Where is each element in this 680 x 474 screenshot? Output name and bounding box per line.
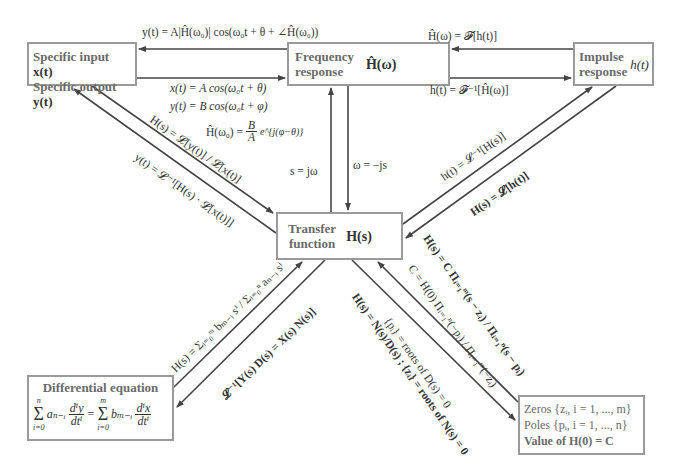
poles-line: Poles {pᵢ, i = 1, ..., n} bbox=[524, 417, 639, 433]
transfer-symbol: H(s) bbox=[346, 229, 372, 244]
h0-value-line: Value of H(0) = C bbox=[524, 433, 639, 449]
label-impulse-to-freq: Ĥ(ω) = 𝓕[h(t)] bbox=[428, 30, 497, 43]
impulse-label-2: response bbox=[579, 64, 627, 79]
y-of-t: y(t) bbox=[33, 94, 53, 109]
label-input-x: x(t) = A cos(ω₀t + θ) bbox=[170, 82, 266, 94]
diffeq-title: Differential equation bbox=[33, 380, 168, 395]
freq-label-2: response bbox=[295, 64, 354, 79]
transfer-function-box: Transfer function H(s) bbox=[276, 212, 403, 260]
arrow-impulse-to-transfer bbox=[406, 86, 616, 238]
diffeq-formula: n Σ i=0 aₙ₋ᵢ dⁱy dtⁱ = m Σ i=0 bₘ₋ᵢ dⁱx … bbox=[33, 396, 168, 432]
freq-label-1: Frequency bbox=[295, 49, 354, 64]
transfer-label-1: Transfer bbox=[288, 221, 336, 236]
frequency-response-box: Frequency response Ĥ(ω) bbox=[287, 42, 450, 86]
zeros-line: Zeros {zᵢ, i = 1, ..., m} bbox=[524, 401, 639, 417]
specific-io-box: Specific input x(t) Specific output y(t) bbox=[27, 42, 137, 86]
transfer-label-2: function bbox=[288, 236, 336, 251]
impulse-symbol: h(t) bbox=[630, 57, 649, 72]
impulse-label-1: Impulse bbox=[579, 49, 627, 64]
specific-input-line: Specific input x(t) bbox=[33, 49, 131, 79]
specific-output-line: Specific output y(t) bbox=[33, 79, 131, 109]
label-freq-to-impulse: h(t) = 𝓕⁻¹[Ĥ(ω)] bbox=[430, 83, 509, 97]
label-w-eq-minus-js: ω = −js bbox=[353, 159, 387, 171]
sum-icon: Σ bbox=[34, 405, 44, 423]
sum-icon: Σ bbox=[98, 405, 108, 423]
differential-equation-box: Differential equation n Σ i=0 aₙ₋ᵢ dⁱy d… bbox=[27, 375, 174, 441]
freq-symbol: Ĥ(ω) bbox=[366, 57, 396, 72]
x-of-t: x(t) bbox=[33, 64, 53, 79]
label-freq-at-w0: Ĥ(ω₀) = B A e^{j(φ−θ)} bbox=[206, 120, 303, 143]
arrow-transfer-to-impulse bbox=[403, 87, 592, 224]
impulse-response-box: Impulse response h(t) bbox=[573, 42, 654, 86]
label-freq-to-specific: y(t) = A|Ĥ(ω₀)| cos(ω₀t + θ + ∠Ĥ(ω₀)) bbox=[142, 25, 318, 39]
label-output-y: y(t) = B cos(ω₀t + φ) bbox=[170, 100, 268, 112]
label-s-eq-jw: s = jω bbox=[290, 165, 317, 177]
arrow-diffeq-to-transfer bbox=[174, 262, 302, 387]
zeros-poles-box: Zeros {zᵢ, i = 1, ..., m} Poles {pᵢ, i =… bbox=[518, 395, 645, 455]
